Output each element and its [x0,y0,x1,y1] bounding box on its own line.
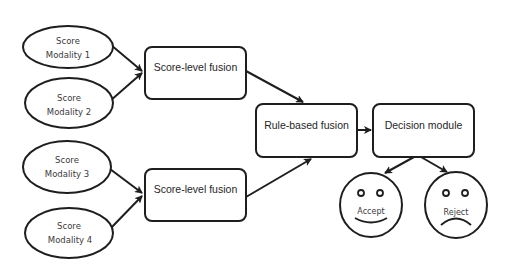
happy-face-icon: Accept [340,173,402,237]
input-modality-3: Score Modality 3 [23,141,111,193]
decision-module-box: Decision module [373,104,474,157]
score-level-fusion-box-1: Score-level fusion [145,47,246,99]
arrow-modality3-to-fusion2 [110,169,142,193]
score-level-fusion-1-label: Score-level fusion [154,61,238,73]
arrow-decision-to-reject [421,157,447,172]
score-level-fusion-box-2: Score-level fusion [145,169,246,221]
arrow-fusion2-to-rule [246,159,311,197]
modality-1-line1: Score [56,36,80,46]
arrow-modality4-to-fusion2 [110,196,142,229]
rule-based-fusion-box: Rule-based fusion [256,104,357,157]
sad-face-icon: Reject [425,172,487,238]
decision-module-label: Decision module [385,119,463,131]
modality-4-line1: Score [57,221,81,231]
input-modality-2: Score Modality 2 [25,78,113,128]
rule-based-fusion-label: Rule-based fusion [264,119,349,131]
arrow-decision-to-accept [385,157,414,173]
modality-2-line1: Score [57,93,81,103]
modality-3-line2: Modality 3 [45,169,89,179]
input-modality-4: Score Modality 4 [25,208,113,258]
fusion-diagram: Score Modality 1 Score Modality 2 Score … [0,0,506,270]
arrow-modality1-to-fusion1 [111,45,142,71]
arrow-fusion1-to-rule [246,71,303,102]
arrow-modality2-to-fusion1 [110,73,142,101]
input-modality-1: Score Modality 1 [23,26,113,68]
score-level-fusion-2-label: Score-level fusion [154,183,238,195]
accept-label: Accept [357,207,384,216]
modality-4-line2: Modality 4 [48,235,92,245]
modality-2-line2: Modality 2 [47,107,91,117]
reject-label: Reject [444,208,469,217]
modality-3-line1: Score [55,155,79,165]
modality-1-line2: Modality 1 [46,50,90,60]
